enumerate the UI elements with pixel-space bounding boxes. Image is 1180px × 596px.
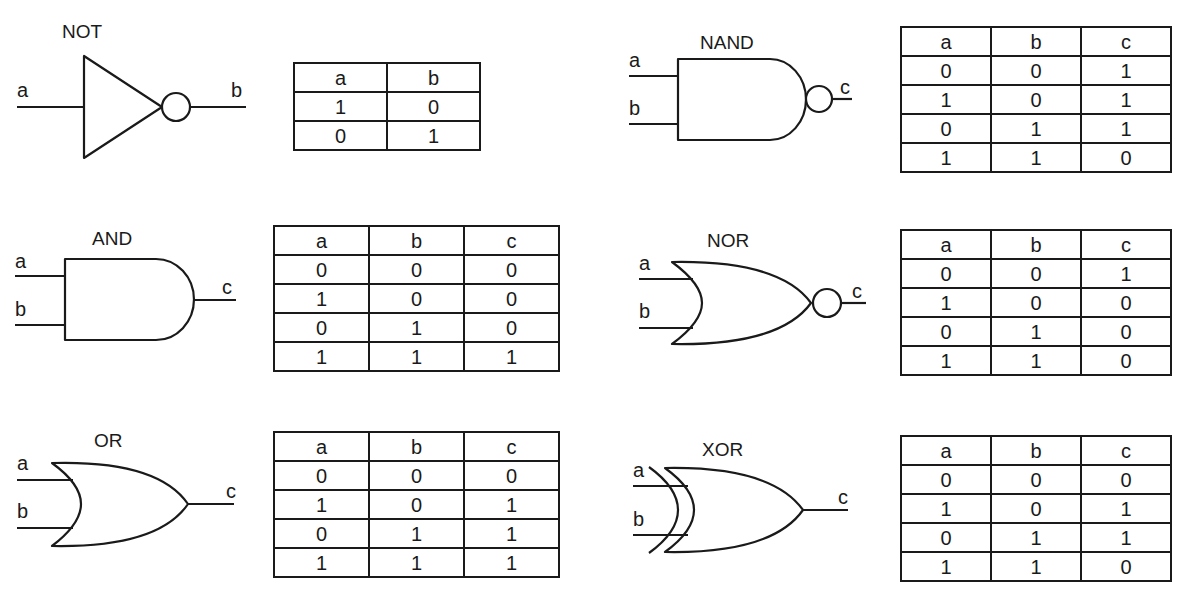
nand-output-c-label: c (840, 76, 850, 98)
table-cell: 0 (901, 114, 991, 143)
table-header-row: a b c (274, 226, 559, 255)
nand-gate: NAND a b c (629, 32, 852, 140)
column-header: a (274, 226, 369, 255)
nand-body (678, 59, 806, 140)
column-header: b (991, 436, 1081, 465)
table-cell: 0 (991, 465, 1081, 494)
or-input-b-label: b (17, 500, 28, 522)
table-cell: 0 (387, 92, 480, 121)
and-output-c-label: c (222, 276, 232, 298)
table-cell: 0 (991, 494, 1081, 523)
column-header: a (901, 436, 991, 465)
column-header: c (464, 226, 559, 255)
table-cell: 1 (464, 519, 559, 548)
not-input-a-label: a (17, 79, 29, 101)
nand-inversion-bubble (806, 86, 832, 112)
table-cell: 1 (274, 490, 369, 519)
not-triangle-body (84, 56, 162, 158)
table-cell: 1 (901, 494, 991, 523)
table-cell: 1 (274, 548, 369, 577)
xor-extra-input-arc (649, 467, 678, 553)
table-cell: 0 (369, 284, 464, 313)
column-header: c (1081, 436, 1171, 465)
table-row: 0 0 0 (274, 461, 559, 490)
table-cell: 0 (464, 461, 559, 490)
nor-gate: NOR a b c (639, 230, 866, 344)
xor-input-b-label: b (633, 508, 644, 530)
column-header: a (274, 432, 369, 461)
column-header: b (991, 230, 1081, 259)
table-row: 0 1 0 (274, 313, 559, 342)
table-row: 1 0 0 (274, 284, 559, 313)
table-row: 1 0 (294, 92, 480, 121)
or-input-a-label: a (17, 452, 29, 474)
and-gate-title: AND (92, 228, 132, 249)
table-row: 0 1 0 (901, 317, 1171, 346)
table-cell: 1 (274, 342, 369, 371)
table-header-row: a b (294, 63, 480, 92)
nand-input-b-label: b (629, 97, 640, 119)
table-cell: 0 (274, 255, 369, 284)
column-header: c (1081, 27, 1171, 56)
table-cell: 0 (369, 255, 464, 284)
table-cell: 0 (901, 56, 991, 85)
table-cell: 0 (369, 461, 464, 490)
not-gate: NOT a b (17, 21, 246, 158)
nor-input-b-label: b (639, 300, 650, 322)
table-row: 0 0 0 (274, 255, 559, 284)
table-row: 1 1 0 (901, 346, 1171, 375)
table-cell: 0 (274, 313, 369, 342)
table-cell: 0 (1081, 552, 1171, 581)
table-row: 0 0 1 (901, 56, 1171, 85)
table-cell: 0 (901, 317, 991, 346)
table-cell: 1 (294, 92, 387, 121)
table-cell: 1 (1081, 85, 1171, 114)
not-inversion-bubble (162, 93, 190, 121)
column-header: c (464, 432, 559, 461)
table-row: 1 0 1 (901, 85, 1171, 114)
table-cell: 1 (991, 346, 1081, 375)
table-cell: 0 (991, 56, 1081, 85)
table-cell: 1 (901, 288, 991, 317)
and-input-b-label: b (15, 298, 26, 320)
table-row: 1 1 1 (274, 342, 559, 371)
table-cell: 0 (901, 259, 991, 288)
nand-gate-title: NAND (700, 32, 754, 53)
and-body (65, 259, 194, 340)
column-header: a (294, 63, 387, 92)
table-cell: 0 (464, 284, 559, 313)
table-cell: 0 (991, 85, 1081, 114)
table-row: 1 1 1 (274, 548, 559, 577)
table-cell: 0 (1081, 346, 1171, 375)
table-cell: 1 (901, 552, 991, 581)
table-cell: 0 (1081, 143, 1171, 172)
table-cell: 0 (294, 121, 387, 150)
table-cell: 1 (901, 346, 991, 375)
table-row: 0 0 0 (901, 465, 1171, 494)
table-cell: 0 (1081, 465, 1171, 494)
table-cell: 0 (991, 259, 1081, 288)
table-cell: 1 (369, 313, 464, 342)
xor-input-a-label: a (633, 459, 645, 481)
table-header-row: a b c (274, 432, 559, 461)
nor-output-c-label: c (852, 280, 862, 302)
xor-gate: XOR a b c (633, 439, 848, 553)
table-cell: 1 (1081, 114, 1171, 143)
nor-gate-title: NOR (707, 230, 749, 251)
and-truth-table: a b c 0 0 0 1 0 0 0 1 0 1 1 1 (273, 225, 560, 372)
nand-input-a-label: a (629, 49, 641, 71)
and-gate: AND a b c (15, 228, 236, 340)
and-input-a-label: a (15, 250, 27, 272)
table-row: 0 1 (294, 121, 480, 150)
not-output-b-label: b (231, 79, 242, 101)
table-cell: 0 (901, 465, 991, 494)
table-cell: 1 (1081, 259, 1171, 288)
or-truth-table: a b c 0 0 0 1 0 1 0 1 1 1 1 1 (273, 431, 560, 578)
table-cell: 1 (991, 523, 1081, 552)
nor-input-a-label: a (639, 252, 651, 274)
table-row: 1 1 0 (901, 552, 1171, 581)
table-cell: 0 (991, 288, 1081, 317)
table-cell: 1 (991, 114, 1081, 143)
column-header: b (369, 226, 464, 255)
table-cell: 1 (369, 342, 464, 371)
